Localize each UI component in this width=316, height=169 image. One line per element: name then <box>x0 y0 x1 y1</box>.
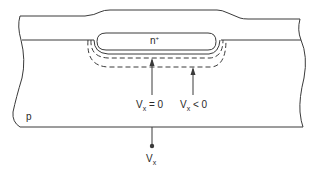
depletion-edge-zero-bias <box>91 40 223 58</box>
oxide-top-edge <box>20 10 300 19</box>
right-break-edge <box>299 19 306 127</box>
terminal-dot-icon <box>150 144 154 148</box>
arrowhead-zero-bias-icon <box>150 58 155 66</box>
junction-edge <box>94 40 220 54</box>
n-plus-label: n+ <box>150 35 160 46</box>
diagram-canvas: n+ p Vx = 0 Vx < 0 Vx <box>0 0 316 169</box>
reverse-bias-label: Vx < 0 <box>180 99 208 112</box>
left-break-edge <box>13 16 24 127</box>
substrate-label: p <box>26 111 32 122</box>
terminal-label: Vx <box>146 153 157 166</box>
structure-outline <box>13 10 306 146</box>
arrowhead-reverse-bias-icon <box>191 67 196 75</box>
zero-bias-label: Vx = 0 <box>136 99 164 112</box>
